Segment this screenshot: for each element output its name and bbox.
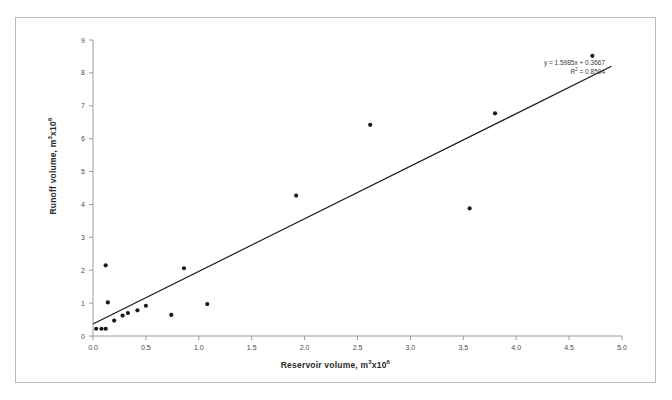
y-axis-title-mid: x10 xyxy=(48,121,58,136)
regression-line xyxy=(93,66,611,324)
data-point xyxy=(144,304,148,308)
x-axis-title-sup2: 6 xyxy=(387,358,391,365)
data-point xyxy=(94,327,98,331)
y-tick-label: 7 xyxy=(81,102,85,109)
x-tick-label: 0.0 xyxy=(88,344,98,351)
x-tick-label: 4.0 xyxy=(511,344,521,351)
y-tick-label: 5 xyxy=(81,168,85,175)
data-point xyxy=(104,327,108,331)
data-points xyxy=(94,54,594,331)
data-point xyxy=(112,318,116,322)
x-axis-ticks: 0.00.51.01.52.02.53.03.54.04.55.0 xyxy=(88,336,627,351)
data-point xyxy=(368,123,372,127)
y-axis-title-sup2: 6 xyxy=(46,118,53,122)
x-tick-label: 2.5 xyxy=(353,344,363,351)
x-tick-label: 2.0 xyxy=(300,344,310,351)
y-tick-label: 4 xyxy=(81,201,85,208)
x-axis-title: Reservoir volume, m3x106 xyxy=(15,358,656,370)
trendline xyxy=(93,66,611,324)
x-tick-label: 3.5 xyxy=(458,344,468,351)
data-point xyxy=(205,302,209,306)
regression-equation-label: y = 1.5985x + 0.3667 xyxy=(470,58,605,67)
x-tick-label: 4.5 xyxy=(564,344,574,351)
y-axis-title-container: Runoff volume, m3x106 xyxy=(42,86,60,246)
x-axis-title-text: Reservoir volume, m xyxy=(281,360,368,370)
y-tick-label: 2 xyxy=(81,267,85,274)
y-axis-title-text: Runoff volume, m xyxy=(48,140,58,215)
y-axis-title: Runoff volume, m3x106 xyxy=(48,118,58,215)
data-point xyxy=(169,313,173,317)
data-point xyxy=(121,314,125,318)
x-axis-title-mid: x10 xyxy=(372,360,387,370)
r-squared-value: = 0.8594 xyxy=(578,69,605,76)
y-tick-label: 6 xyxy=(81,135,85,142)
y-tick-label: 9 xyxy=(81,37,85,44)
data-point xyxy=(294,193,298,197)
screenshot-root: 0.00.51.01.52.02.53.03.54.04.55.0 012345… xyxy=(0,0,672,400)
data-point xyxy=(126,311,130,315)
x-tick-label: 1.5 xyxy=(247,344,257,351)
y-axis-ticks: 0123456789 xyxy=(81,37,93,340)
regression-annotation: y = 1.5985x + 0.3667 R2 = 0.8594 xyxy=(470,58,605,77)
x-tick-label: 0.5 xyxy=(141,344,151,351)
data-point xyxy=(468,206,472,210)
y-axis-title-sup1: 3 xyxy=(46,136,53,140)
y-tick-label: 8 xyxy=(81,69,85,76)
r-squared-label: R2 = 0.8594 xyxy=(470,67,605,77)
scatter-chart-figure: 0.00.51.01.52.02.53.03.54.04.55.0 012345… xyxy=(15,17,656,383)
x-tick-label: 1.0 xyxy=(194,344,204,351)
data-point xyxy=(99,327,103,331)
data-point xyxy=(493,111,497,115)
y-tick-label: 1 xyxy=(81,300,85,307)
y-tick-label: 0 xyxy=(81,333,85,340)
y-tick-label: 3 xyxy=(81,234,85,241)
data-point xyxy=(182,266,186,270)
x-tick-label: 5.0 xyxy=(617,344,627,351)
data-point xyxy=(104,263,108,267)
data-point xyxy=(135,308,139,312)
x-tick-label: 3.0 xyxy=(406,344,416,351)
chart-axes xyxy=(93,40,622,336)
data-point xyxy=(106,300,110,304)
